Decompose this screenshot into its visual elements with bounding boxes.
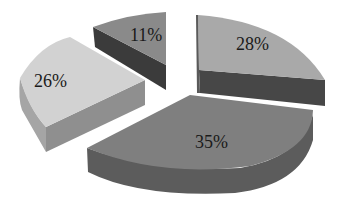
pie-chart: 26% 11% 28% 35% [0,0,347,208]
label-26: 26% [34,71,67,91]
label-11: 11% [130,25,162,45]
label-28: 28% [236,34,269,54]
label-35: 35% [195,132,228,152]
slice-28: 28% [196,15,325,106]
